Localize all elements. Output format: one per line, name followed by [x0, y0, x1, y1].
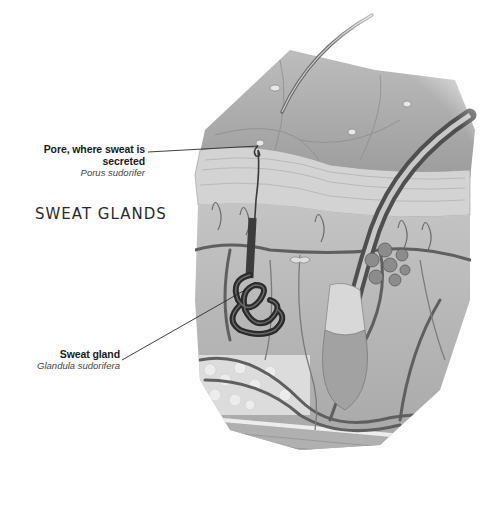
- label-pore-latin: Porus sudorifer: [20, 167, 145, 178]
- label-pore: Pore, where sweat is secreted Porus sudo…: [20, 143, 145, 178]
- skin-cross-section-illustration: [0, 0, 485, 505]
- label-gland-main: Sweat gland: [20, 348, 120, 360]
- label-gland: Sweat gland Glandula sudorifera: [20, 348, 120, 371]
- label-gland-latin: Glandula sudorifera: [20, 360, 120, 371]
- diagram-title: SWEAT GLANDS: [35, 205, 167, 223]
- label-pore-main: Pore, where sweat is secreted: [20, 143, 145, 167]
